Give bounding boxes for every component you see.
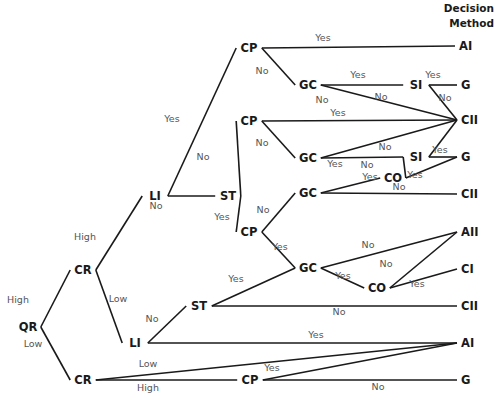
edge-label: No xyxy=(146,313,159,324)
node-st1: ST xyxy=(220,189,236,203)
edge-label: High xyxy=(7,294,29,305)
edge-label: Yes xyxy=(361,171,377,182)
edge-label: No xyxy=(256,65,269,76)
edge-label: No xyxy=(375,91,388,102)
edge-label: No xyxy=(316,94,329,105)
edge-qr-cr1 xyxy=(41,270,70,327)
edge-label: Yes xyxy=(307,329,323,340)
outcome-cii2: CII xyxy=(461,187,478,201)
edge-label: Yes xyxy=(163,113,179,124)
node-co2: CO xyxy=(368,281,386,295)
edge-label: Yes xyxy=(329,107,345,118)
node-si1: SI xyxy=(410,78,423,92)
edge-label: Yes xyxy=(431,144,447,155)
edge-label: No xyxy=(256,137,269,148)
decision-method-outcomes: AIGCIIGCIIAIICICIIAIG xyxy=(459,39,478,387)
edge-label: No xyxy=(380,258,393,269)
node-qr: QR xyxy=(19,320,38,334)
edge-label: Low xyxy=(109,293,128,304)
edge-label: Yes xyxy=(227,273,243,284)
edge-label: Yes xyxy=(406,169,422,180)
edge-co1-si2 xyxy=(403,157,406,178)
decision-tree-diagram: HighLowHighLowYesNoYesNoYesNoNoYesNoNoYe… xyxy=(0,0,498,408)
edge-gc3-cii2 xyxy=(321,193,457,194)
edge-label: No xyxy=(361,159,374,170)
header-decision: Decision xyxy=(444,2,494,14)
edge-label: No xyxy=(333,306,346,317)
edge-label: Yes xyxy=(314,32,330,43)
edge-cr1-li2 xyxy=(96,270,122,343)
edge-st1-cp2 xyxy=(236,121,241,196)
node-cp1: CP xyxy=(241,41,258,55)
outcome-g2: G xyxy=(461,150,470,164)
node-co1: CO xyxy=(384,171,402,185)
edge-cp1-ai1 xyxy=(262,46,455,48)
node-si2: SI xyxy=(410,150,423,164)
edge-label: Low xyxy=(139,358,158,369)
node-li1: LI xyxy=(149,189,161,203)
edge-label: No xyxy=(372,381,385,392)
node-gc4: GC xyxy=(299,261,317,275)
edge-label: Yes xyxy=(424,69,440,80)
edge-label: Yes xyxy=(213,211,229,222)
outcome-ai2: AI xyxy=(461,336,474,350)
edge-label: Yes xyxy=(271,241,287,252)
edge-st2-gc4 xyxy=(212,268,295,306)
edge-label: No xyxy=(257,204,270,215)
node-st2: ST xyxy=(191,299,207,313)
edge-label: Yes xyxy=(334,270,350,281)
outcome-g3: G xyxy=(461,373,470,387)
edge-cp2-cii1 xyxy=(262,120,457,121)
outcome-cii3: CII xyxy=(461,299,478,313)
edge-label: Low xyxy=(24,338,43,349)
edge-li2-st2 xyxy=(148,306,186,343)
edge-label: No xyxy=(362,239,375,250)
node-gc2: GC xyxy=(299,151,317,165)
outcome-aii: AII xyxy=(461,225,478,239)
edge-label: High xyxy=(74,231,96,242)
edge-label: Yes xyxy=(263,362,279,373)
edge-label: Yes xyxy=(349,69,365,80)
edge-label: No xyxy=(379,141,392,152)
outcome-ai1: AI xyxy=(459,39,472,53)
column-header: Decision Method xyxy=(444,2,494,29)
header-method: Method xyxy=(449,17,494,29)
edge-cr1-li1 xyxy=(96,196,142,270)
outcome-ci: CI xyxy=(461,262,474,276)
node-gc1: GC xyxy=(299,78,317,92)
edge-label: Yes xyxy=(326,158,342,169)
edge-label: No xyxy=(439,92,452,103)
node-cr1: CR xyxy=(74,263,91,277)
node-cr2: CR xyxy=(74,373,91,387)
node-li2: LI xyxy=(129,336,141,350)
tree-edges xyxy=(41,46,457,380)
node-cp3: CP xyxy=(241,225,258,239)
edge-labels: HighLowHighLowYesNoYesNoYesNoNoYesNoNoYe… xyxy=(7,32,452,393)
edge-label: No xyxy=(197,151,210,162)
edge-label: High xyxy=(137,382,159,393)
node-cp4: CP xyxy=(242,373,259,387)
node-cp2: CP xyxy=(241,114,258,128)
outcome-g1: G xyxy=(461,78,470,92)
edge-cp4-ai2 xyxy=(263,343,457,380)
outcome-cii1: CII xyxy=(461,113,478,127)
node-gc3: GC xyxy=(299,186,317,200)
edge-qr-cr2 xyxy=(41,327,70,380)
edge-label: Yes xyxy=(408,278,424,289)
